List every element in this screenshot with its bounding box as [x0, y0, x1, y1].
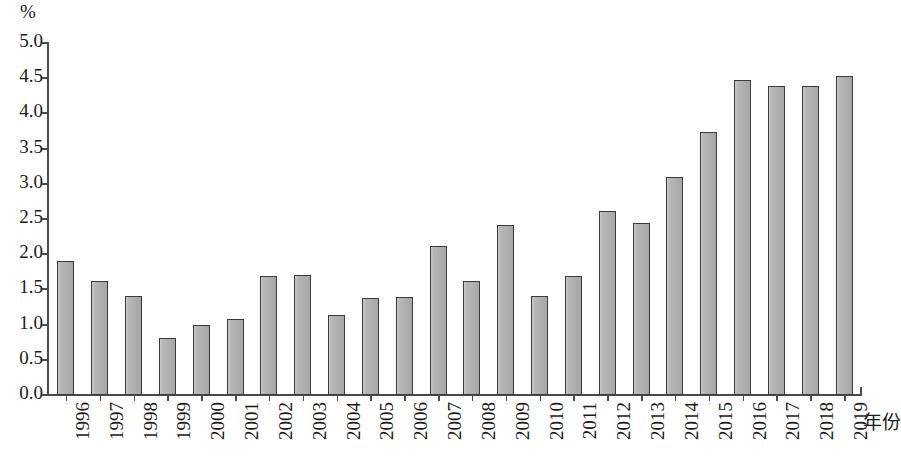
- x-axis-tick-label: 2010: [547, 402, 566, 440]
- x-axis-tick-mark: [709, 394, 711, 401]
- x-axis-tick-label: 2018: [817, 402, 836, 440]
- bar-chart: % 5.04.54.03.53.02.52.01.51.00.50.0 1996…: [0, 0, 901, 457]
- bar: [734, 80, 751, 395]
- bar-slot: [430, 43, 447, 395]
- bar-slot: [227, 43, 244, 395]
- bar: [666, 177, 683, 395]
- bar-slot: [802, 43, 819, 395]
- bar: [328, 315, 345, 395]
- bar: [565, 276, 582, 395]
- bar-slot: [768, 43, 785, 395]
- y-axis-tick-mark: [42, 359, 49, 361]
- y-axis-tick-label: 3.5: [19, 137, 43, 156]
- plot-area: [49, 43, 861, 395]
- x-axis-tick-mark: [167, 394, 169, 401]
- y-axis-tick-label: 0.5: [19, 348, 43, 367]
- bar: [57, 261, 74, 395]
- x-axis-tick-label: 1997: [107, 402, 126, 440]
- y-axis-unit-label: %: [20, 2, 36, 21]
- y-axis-tick-label: 5.0: [19, 31, 43, 50]
- y-axis-tick-mark: [42, 394, 49, 396]
- bar-slot: [497, 43, 514, 395]
- y-axis-tick-mark: [42, 42, 49, 44]
- y-axis-tick-mark: [42, 183, 49, 185]
- bar-slot: [599, 43, 616, 395]
- x-axis-tick-label: 2013: [648, 402, 667, 440]
- x-axis-tick-label: 2006: [411, 402, 430, 440]
- x-axis-tick-mark: [844, 394, 846, 401]
- x-axis-tick-label: 2000: [208, 402, 227, 440]
- bar-slot: [565, 43, 582, 395]
- x-axis-tick-mark: [337, 394, 339, 401]
- x-axis-tick-mark: [607, 394, 609, 401]
- y-axis-tick-mark: [42, 324, 49, 326]
- y-axis-tick-label: 4.5: [19, 66, 43, 85]
- bar-slot: [328, 43, 345, 395]
- y-axis-tick-mark: [42, 253, 49, 255]
- bar-slot: [700, 43, 717, 395]
- bar-slot: [666, 43, 683, 395]
- bar-slot: [260, 43, 277, 395]
- bar: [497, 225, 514, 395]
- x-axis-tick-label: 2011: [580, 402, 599, 439]
- bar-slot: [463, 43, 480, 395]
- bar: [531, 296, 548, 395]
- bar-slot: [836, 43, 853, 395]
- x-axis-tick-mark: [201, 394, 203, 401]
- x-axis-tick-mark: [269, 394, 271, 401]
- bar-slot: [125, 43, 142, 395]
- y-axis-tick-label: 2.5: [19, 207, 43, 226]
- bar-slot: [362, 43, 379, 395]
- x-axis-tick-label: 1996: [73, 402, 92, 440]
- bar: [463, 281, 480, 395]
- bar-slot: [396, 43, 413, 395]
- y-axis-tick-label: 4.0: [19, 101, 43, 120]
- x-axis-tick-mark: [472, 394, 474, 401]
- bar: [260, 276, 277, 395]
- bar: [159, 338, 176, 395]
- x-axis-tick-mark: [540, 394, 542, 401]
- bar: [193, 325, 210, 395]
- x-axis-tick-mark: [810, 394, 812, 401]
- x-axis-tick-label: 1998: [141, 402, 160, 440]
- y-axis-tick-mark: [42, 148, 49, 150]
- x-axis-tick-mark: [573, 394, 575, 401]
- bar-slot: [193, 43, 210, 395]
- bar: [802, 86, 819, 395]
- bar-slot: [57, 43, 74, 395]
- x-axis-title: 年份: [863, 413, 901, 432]
- bar: [633, 223, 650, 395]
- y-axis-tick-mark: [42, 112, 49, 114]
- x-axis-tick-mark: [743, 394, 745, 401]
- bar: [294, 275, 311, 395]
- bar: [125, 296, 142, 395]
- bar: [362, 298, 379, 395]
- bar: [768, 86, 785, 395]
- x-axis-tick-mark: [404, 394, 406, 401]
- bar-slot: [159, 43, 176, 395]
- bar-slot: [734, 43, 751, 395]
- x-axis-tick-label: 2008: [479, 402, 498, 440]
- x-axis-tick-label: 2004: [344, 402, 363, 440]
- y-axis-tick-label: 3.0: [19, 172, 43, 191]
- y-axis-tick-label: 1.5: [19, 277, 43, 296]
- x-axis-tick-mark: [438, 394, 440, 401]
- x-axis-tick-label: 2003: [310, 402, 329, 440]
- bar-slot: [91, 43, 108, 395]
- x-axis-tick-mark: [66, 394, 68, 401]
- bar: [599, 211, 616, 395]
- x-axis-tick-label: 2017: [783, 402, 802, 440]
- x-axis-tick-mark: [100, 394, 102, 401]
- x-axis-tick-label: 2005: [377, 402, 396, 440]
- x-axis-tick-label: 2014: [682, 402, 701, 440]
- x-axis-tick-label: 1999: [174, 402, 193, 440]
- bar: [836, 76, 853, 395]
- x-axis-tick-mark: [370, 394, 372, 401]
- bar: [396, 297, 413, 395]
- x-axis-tick-mark: [235, 394, 237, 401]
- bar-slot: [531, 43, 548, 395]
- x-axis-tick-label: 2002: [276, 402, 295, 440]
- x-axis-tick-label: 2009: [513, 402, 532, 440]
- y-axis-tick-mark: [42, 288, 49, 290]
- x-axis-tick-mark: [303, 394, 305, 401]
